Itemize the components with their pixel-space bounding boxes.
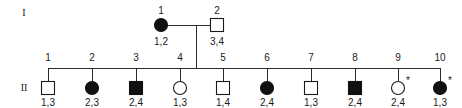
individual-I-2-symbol-square-open[interactable] (211, 19, 224, 32)
individual-II-10-symbol-circle-filled[interactable] (434, 82, 447, 95)
individual-II-2-number: 2 (89, 52, 95, 63)
individual-II-10[interactable]: 10 * 1,3 (433, 52, 452, 108)
individual-II-9-symbol-circle-open[interactable] (392, 82, 405, 95)
individual-II-9-number: 9 (395, 52, 401, 63)
individual-II-6-number: 6 (264, 52, 270, 63)
individual-II-1-symbol-square-open[interactable] (42, 82, 55, 95)
individual-I-1-genotype: 1,2 (154, 36, 168, 47)
generation-I-connectors (168, 25, 210, 68)
individual-II-3-genotype: 2,4 (129, 97, 143, 108)
individual-II-6-genotype: 2,4 (260, 97, 274, 108)
individual-II-5-symbol-square-open[interactable] (217, 82, 230, 95)
individual-II-4-genotype: 1,3 (173, 97, 187, 108)
individual-II-8-number: 8 (352, 52, 358, 63)
individual-II-5-number: 5 (220, 52, 226, 63)
individual-II-4-number: 4 (177, 52, 183, 63)
individual-II-1-number: 1 (45, 52, 51, 63)
individual-II-6-symbol-circle-filled[interactable] (261, 82, 274, 95)
individual-II-10-asterisk: * (448, 75, 452, 86)
individual-II-3-number: 3 (133, 52, 139, 63)
individual-I-2-genotype: 3,4 (210, 36, 224, 47)
generation-label-I: I (22, 7, 25, 18)
individual-II-3-symbol-square-filled[interactable] (130, 82, 143, 95)
individual-I-2-number: 2 (214, 5, 220, 16)
generation-I-individuals: 1 1,2 2 3,4 (154, 5, 224, 47)
individual-II-10-genotype: 1,3 (433, 97, 447, 108)
individual-II-9-genotype: 2,4 (391, 97, 405, 108)
individual-I-1[interactable]: 1 1,2 (154, 5, 168, 47)
individual-II-5-genotype: 1,4 (216, 97, 230, 108)
individual-II-7-genotype: 1,3 (304, 97, 318, 108)
individual-II-9[interactable]: 9 * 2,4 (391, 52, 410, 108)
individual-I-1-number: 1 (158, 5, 164, 16)
generation-label-II: II (21, 82, 28, 93)
individual-II-8-symbol-square-filled[interactable] (349, 82, 362, 95)
individual-II-8-genotype: 2,4 (348, 97, 362, 108)
generation-II-drop-lines (48, 68, 440, 81)
individual-I-1-symbol-circle-filled[interactable] (155, 19, 168, 32)
individual-II-10-number: 10 (434, 52, 446, 63)
individual-I-2[interactable]: 2 3,4 (210, 5, 224, 47)
individual-II-9-asterisk: * (406, 75, 410, 86)
pedigree-chart: I II 1 1,2 2 3,4 (0, 0, 462, 108)
individual-II-7-number: 7 (308, 52, 314, 63)
individual-II-7-symbol-square-open[interactable] (305, 82, 318, 95)
generation-II-individuals: 1 1,3 2 2,3 3 2,4 4 1,3 5 1,4 (41, 52, 452, 108)
individual-II-4-symbol-circle-open[interactable] (174, 82, 187, 95)
individual-II-2-symbol-circle-filled[interactable] (86, 82, 99, 95)
individual-II-1-genotype: 1,3 (41, 97, 55, 108)
individual-II-2-genotype: 2,3 (85, 97, 99, 108)
